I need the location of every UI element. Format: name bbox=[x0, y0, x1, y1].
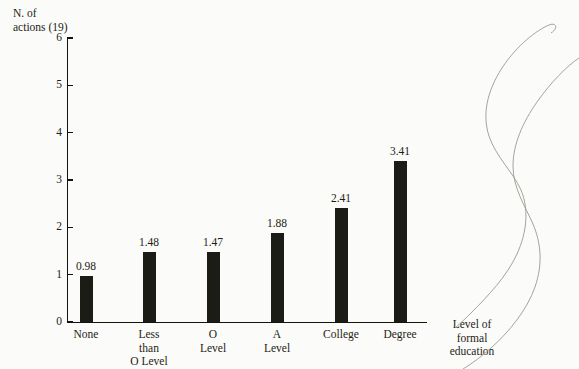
y-axis-tick bbox=[67, 132, 73, 133]
y-axis-tick bbox=[67, 321, 73, 322]
y-axis-tick bbox=[67, 227, 73, 228]
bar-value-label: 1.47 bbox=[190, 237, 236, 249]
bar-value-label: 1.48 bbox=[126, 237, 172, 249]
y-axis-tick-label: 5 bbox=[40, 79, 62, 91]
y-axis-tick bbox=[67, 179, 73, 180]
y-axis-tick-label: 1 bbox=[40, 269, 62, 281]
x-axis-category-label: Less than O Level bbox=[114, 328, 184, 369]
bar-value-label: 0.98 bbox=[63, 261, 109, 273]
y-axis-tick bbox=[67, 274, 73, 275]
y-axis-tick-label: 0 bbox=[40, 316, 62, 328]
y-axis-tick bbox=[67, 37, 73, 38]
x-axis-category-label: None bbox=[51, 328, 121, 342]
plot-area: 0123456 0.98None1.48Less than O Level1.4… bbox=[0, 0, 579, 369]
x-axis-category-label: A Level bbox=[242, 328, 312, 355]
y-axis-tick-label: 4 bbox=[40, 127, 62, 139]
x-axis-category-label: O Level bbox=[178, 328, 248, 355]
y-axis-tick-label: 6 bbox=[40, 32, 62, 44]
x-axis-line bbox=[67, 322, 427, 323]
bar-value-label: 2.41 bbox=[318, 193, 364, 205]
chart-page: N. of actions (19) 0123456 0.98None1.48L… bbox=[0, 0, 579, 369]
bar bbox=[207, 252, 220, 322]
bar-value-label: 1.88 bbox=[254, 218, 300, 230]
y-axis-tick bbox=[67, 85, 73, 86]
bar bbox=[335, 208, 348, 322]
bar bbox=[394, 161, 407, 322]
bar bbox=[80, 276, 93, 322]
y-axis-tick-label: 2 bbox=[40, 221, 62, 233]
bar bbox=[271, 233, 284, 322]
bar-value-label: 3.41 bbox=[377, 146, 423, 158]
bar bbox=[143, 252, 156, 322]
x-axis-category-label: Degree bbox=[365, 328, 435, 342]
y-axis-tick-label: 3 bbox=[40, 174, 62, 186]
x-axis-title: Level of formal education bbox=[426, 318, 518, 359]
